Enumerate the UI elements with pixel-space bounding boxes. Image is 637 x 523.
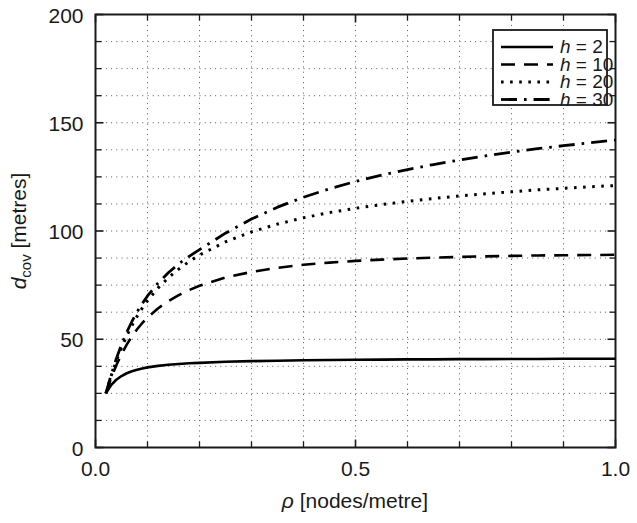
y-tick-label: 50 (60, 328, 83, 351)
y-axis-label: dcov [metres] (7, 173, 34, 290)
legend-label-h-30: h = 30 (560, 89, 613, 110)
x-tick-label: 1.0 (601, 457, 630, 480)
y-tick-label: 150 (48, 112, 83, 135)
data-curve-h-20 (106, 186, 616, 394)
data-curve-h-10 (106, 255, 616, 394)
svg-text:ρ [nodes/metre]: ρ [nodes/metre] (281, 489, 428, 512)
data-curve-h-30 (106, 140, 616, 393)
x-axis-label: ρ [nodes/metre] (281, 489, 428, 512)
y-tick-label: 200 (48, 4, 83, 27)
coverage-distance-line-chart: 0.00.51.0 050100150200 ρ [nodes/metre] d… (0, 0, 637, 523)
x-axis-tick-labels: 0.00.51.0 (81, 457, 630, 480)
y-tick-label: 0 (72, 437, 84, 460)
data-curves-group (106, 140, 616, 393)
svg-text:dcov [metres]: dcov [metres] (7, 173, 34, 290)
x-tick-label: 0.0 (81, 457, 110, 480)
y-tick-label: 100 (48, 220, 83, 243)
data-curve-h-2 (106, 359, 616, 394)
chart-figure: 0.00.51.0 050100150200 ρ [nodes/metre] d… (0, 0, 637, 523)
legend: h = 2h = 10h = 20h = 30 (493, 30, 613, 110)
x-tick-label: 0.5 (341, 457, 370, 480)
y-axis-tick-labels: 050100150200 (48, 4, 83, 460)
